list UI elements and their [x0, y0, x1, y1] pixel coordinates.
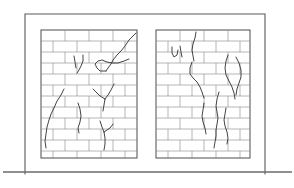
right-panel: [156, 30, 250, 158]
left-panel: [41, 30, 137, 158]
masonry-wall-diagram: [0, 0, 294, 188]
figure-root: Line drawing of two brick masonry wall p…: [0, 0, 294, 188]
